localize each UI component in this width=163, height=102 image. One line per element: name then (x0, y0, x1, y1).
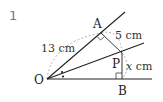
angle-mark-dot-upper (61, 71, 63, 73)
unit-cm: cm (132, 60, 153, 73)
right-angle-mark-a (97, 37, 105, 41)
problem-number: 1 (9, 8, 17, 23)
geometry-figure: 1 O A P B 13 cm 5 cm x cm (0, 0, 163, 102)
label-p: P (112, 57, 120, 71)
measure-ap: 5 cm (115, 29, 143, 42)
angle-mark-dot-lower (62, 75, 64, 77)
measure-oa: 13 cm (41, 42, 76, 55)
measure-pb: x cm (126, 60, 153, 73)
right-angle-mark-b (116, 73, 122, 79)
label-a: A (92, 17, 102, 31)
label-o: O (34, 73, 44, 87)
label-b: B (118, 84, 127, 98)
